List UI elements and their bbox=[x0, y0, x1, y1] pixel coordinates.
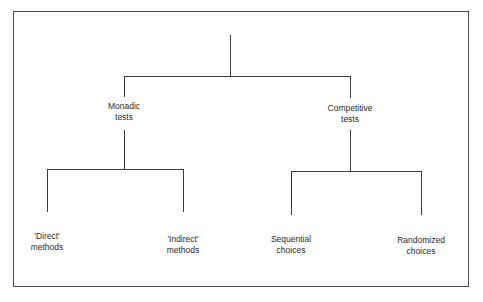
node-sequential-choices: Sequential choices bbox=[271, 234, 311, 255]
node-label-line2: methods bbox=[31, 242, 64, 253]
node-monadic-tests: Monadic tests bbox=[108, 101, 140, 122]
node-label-line1: 'Indirect' bbox=[167, 234, 200, 245]
node-competitive-tests: Competitive tests bbox=[328, 103, 373, 124]
node-direct-methods: 'Direct' methods bbox=[31, 231, 64, 252]
direct-connector bbox=[47, 169, 48, 212]
node-label-line2: methods bbox=[167, 245, 200, 256]
sequential-connector bbox=[291, 171, 292, 215]
monadic-children-connector bbox=[47, 169, 184, 170]
tree-diagram: Monadic tests Competitive tests 'Direct'… bbox=[0, 0, 483, 302]
node-label-line1: Competitive bbox=[328, 103, 373, 114]
node-label-line1: 'Direct' bbox=[31, 231, 64, 242]
node-label-line2: tests bbox=[328, 114, 373, 125]
competitive-connector-top bbox=[350, 76, 351, 98]
monadic-connector-top bbox=[124, 76, 125, 97]
competitive-children-connector bbox=[291, 171, 422, 172]
node-label-line1: Monadic bbox=[108, 101, 140, 112]
competitive-connector-bottom bbox=[350, 130, 351, 172]
randomized-connector bbox=[421, 171, 422, 215]
node-randomized-choices: Randomized choices bbox=[397, 235, 445, 256]
node-label-line1: Randomized bbox=[397, 235, 445, 246]
node-label-line2: tests bbox=[108, 112, 140, 123]
node-label-line2: choices bbox=[397, 246, 445, 257]
indirect-connector bbox=[183, 169, 184, 212]
level1-connector bbox=[124, 76, 351, 77]
monadic-connector-bottom bbox=[124, 130, 125, 170]
root-connector bbox=[230, 35, 231, 77]
node-label-line2: choices bbox=[271, 245, 311, 256]
node-label-line1: Sequential bbox=[271, 234, 311, 245]
node-indirect-methods: 'Indirect' methods bbox=[167, 234, 200, 255]
